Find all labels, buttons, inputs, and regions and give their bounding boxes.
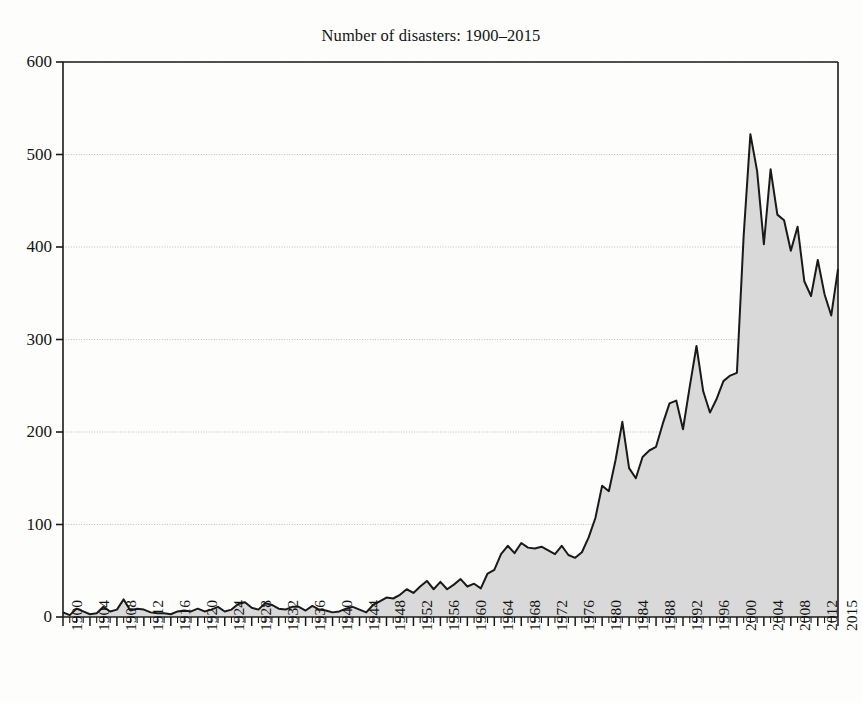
xtick-label-1940: 1940 [339, 600, 355, 631]
xtick-label-1920: 1920 [204, 600, 220, 631]
plot-area [0, 0, 862, 703]
xtick-label-1936: 1936 [312, 600, 328, 631]
xtick-label-1996: 1996 [716, 600, 732, 631]
xtick-label-1988: 1988 [662, 600, 678, 631]
xtick-label-2015: 2015 [844, 600, 860, 631]
xtick-label-1968: 1968 [527, 600, 543, 631]
xtick-label-1964: 1964 [500, 600, 516, 631]
ytick-label-600: 600 [0, 53, 52, 70]
ytick-label-300: 300 [0, 331, 52, 348]
ytick-label-100: 100 [0, 516, 52, 533]
ytick-label-500: 500 [0, 146, 52, 163]
ytick-label-0: 0 [0, 608, 52, 625]
xtick-label-1916: 1916 [177, 600, 193, 631]
xtick-label-1904: 1904 [96, 600, 112, 631]
xtick-label-1976: 1976 [581, 600, 597, 631]
area-fill-path [63, 134, 838, 617]
xtick-label-1928: 1928 [258, 600, 274, 631]
xtick-label-1932: 1932 [285, 600, 301, 631]
xtick-label-1956: 1956 [446, 600, 462, 631]
xtick-label-1980: 1980 [608, 600, 624, 631]
xtick-label-1924: 1924 [231, 600, 247, 631]
xtick-label-2004: 2004 [770, 600, 786, 631]
xtick-label-2008: 2008 [797, 600, 813, 631]
xtick-label-1948: 1948 [392, 600, 408, 631]
xtick-label-1952: 1952 [419, 600, 435, 631]
ytick-label-200: 200 [0, 423, 52, 440]
area-fill [63, 134, 838, 617]
chart-figure: Number of disasters: 1900–2015 010020030… [0, 0, 862, 703]
xtick-label-1944: 1944 [366, 600, 382, 631]
y-axis-ticks [56, 62, 63, 617]
xtick-label-1984: 1984 [635, 600, 651, 631]
xtick-label-2000: 2000 [743, 600, 759, 631]
xtick-label-1912: 1912 [150, 600, 166, 631]
xtick-label-1908: 1908 [123, 600, 139, 631]
xtick-label-1900: 1900 [69, 600, 85, 631]
xtick-label-1972: 1972 [554, 600, 570, 631]
xtick-label-2012: 2012 [824, 600, 840, 631]
ytick-label-400: 400 [0, 238, 52, 255]
xtick-label-1992: 1992 [689, 600, 705, 631]
xtick-label-1960: 1960 [473, 600, 489, 631]
